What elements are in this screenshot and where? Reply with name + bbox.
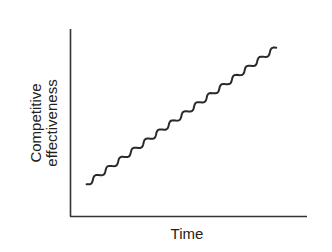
y-axis-label-line1: Competitive bbox=[28, 79, 44, 166]
y-axis-label-line2: effectiveness bbox=[44, 79, 60, 166]
x-axis-label: Time bbox=[171, 225, 204, 242]
data-line bbox=[87, 48, 277, 185]
y-axis-label: Competitive effectiveness bbox=[28, 79, 60, 166]
